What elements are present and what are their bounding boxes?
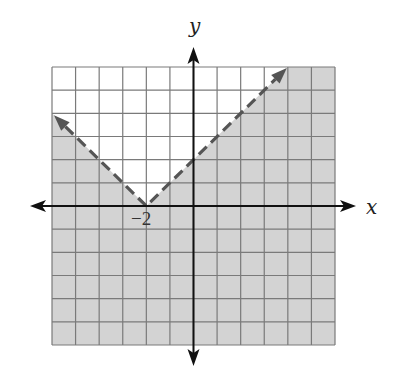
inequality-graph: y x −2: [0, 0, 396, 387]
vertex-tick-label: −2: [131, 208, 151, 229]
x-axis-label: x: [366, 195, 377, 219]
y-axis-label: y: [188, 14, 201, 38]
